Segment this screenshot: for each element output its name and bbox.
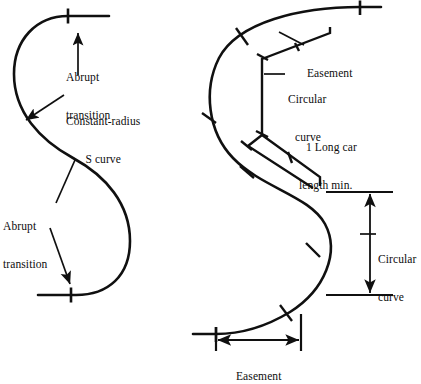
right-tick-mid-upper-spiral [202, 113, 216, 123]
label-abrupt-transition-top-line1: Abrupt [66, 71, 110, 84]
label-circular-curve-lower: Circular curve [378, 228, 416, 328]
left-leader-constant-radius [26, 95, 64, 120]
right-tick-lower-spiral [306, 243, 320, 257]
label-circular-curve-lower-line2: curve [378, 291, 416, 304]
label-circular-curve-lower-line1: Circular [378, 253, 416, 266]
right-diagram-group [193, 1, 393, 352]
label-constant-radius-s-curve: Constant-radius S curve [66, 90, 140, 190]
left-leader-abrupt-bottom-lower [50, 228, 70, 284]
label-long-car-length-line2: length min. [299, 179, 357, 192]
label-abrupt-transition-bottom: Abrupt transition [3, 195, 47, 295]
label-abrupt-transition-bottom-line2: transition [3, 258, 47, 271]
label-long-car-length-line1: 1 Long car [299, 141, 357, 154]
label-easement-bottom: Easement [236, 345, 282, 384]
label-easement-bottom-line1: Easement [236, 370, 282, 383]
label-circular-curve-upper-line1: Circular [288, 93, 326, 106]
label-long-car-length: 1 Long car length min. [299, 116, 357, 216]
label-constant-radius-line2: S curve [66, 153, 140, 166]
label-abrupt-transition-bottom-line1: Abrupt [3, 220, 47, 233]
right-leader-easement-top [279, 32, 304, 45]
label-constant-radius-line1: Constant-radius [66, 115, 140, 128]
